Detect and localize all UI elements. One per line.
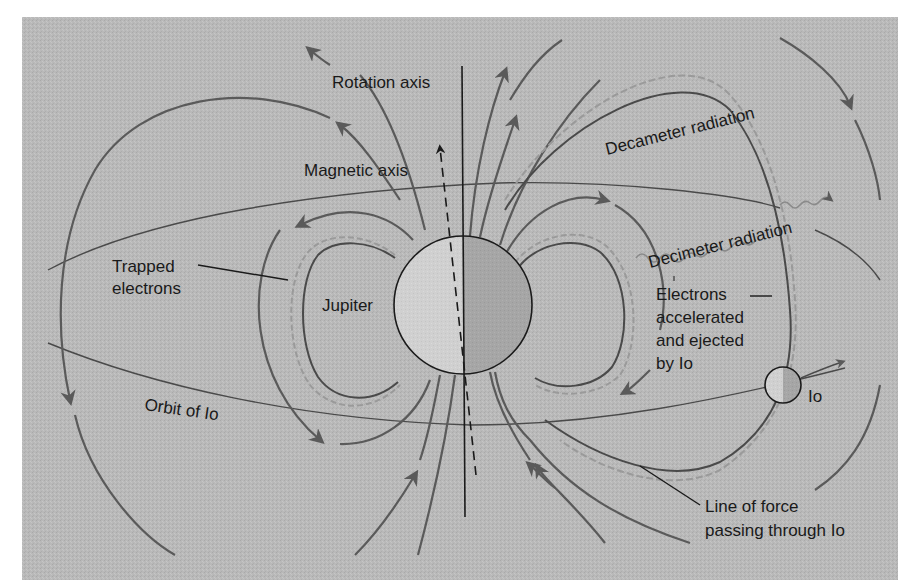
jupiter-magnetosphere-diagram: Rotation axis Magnetic axis Decameter ra… [0, 0, 905, 588]
label-electrons-2: accelerated [656, 308, 744, 327]
label-line-of-force-1: Line of force [705, 497, 799, 516]
label-rotation-axis: Rotation axis [332, 73, 430, 92]
label-trapped-electrons-2: electrons [112, 279, 181, 298]
label-line-of-force-2: passing through Io [705, 521, 845, 540]
label-electrons-3: and ejected [656, 331, 744, 350]
label-trapped-electrons-1: Trapped [112, 257, 175, 276]
label-io: Io [808, 387, 822, 406]
label-magnetic-axis: Magnetic axis [304, 161, 408, 180]
label-electrons-1: Electrons [656, 285, 727, 304]
label-electrons-4: by Io [656, 354, 693, 373]
label-jupiter: Jupiter [322, 296, 373, 315]
io-moon [765, 367, 801, 403]
